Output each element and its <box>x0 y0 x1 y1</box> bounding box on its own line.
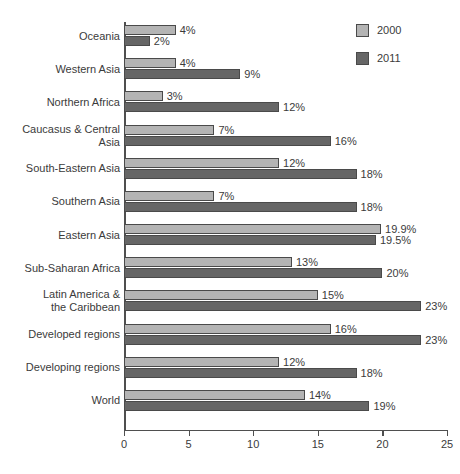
bar-value-label: 19.5% <box>380 235 411 245</box>
bar-group: 14%19% <box>124 390 447 412</box>
bar-group: 13%20% <box>124 257 447 279</box>
bar-value-label: 4% <box>180 25 196 35</box>
bar-2000 <box>124 25 176 35</box>
bar-value-label: 3% <box>167 91 183 101</box>
x-axis-tick <box>447 430 448 436</box>
bar-2011 <box>124 368 357 378</box>
bar-2011 <box>124 335 421 345</box>
bar-value-label: 7% <box>218 191 234 201</box>
x-axis-tick-label: 0 <box>121 438 127 450</box>
bar-2011 <box>124 69 240 79</box>
bar-2000 <box>124 390 305 400</box>
bar-value-label: 9% <box>244 69 260 79</box>
bar-2000 <box>124 58 176 68</box>
bar-2011 <box>124 169 357 179</box>
x-axis-tick-label: 10 <box>247 438 259 450</box>
bar-group: 4%9% <box>124 58 447 80</box>
x-axis-tick <box>318 430 319 436</box>
y-axis-label-line: World <box>2 394 120 407</box>
bar-group: 4%2% <box>124 25 447 47</box>
y-axis-label-line: Western Asia <box>2 63 120 76</box>
y-axis-category-label: Northern Africa <box>2 96 120 109</box>
bar-value-label: 7% <box>218 125 234 135</box>
x-axis-tick-label: 15 <box>312 438 324 450</box>
bar-value-label: 12% <box>283 102 305 112</box>
bar-value-label: 19.9% <box>385 224 416 234</box>
bar-2000 <box>124 290 318 300</box>
y-axis-category-label: Southern Asia <box>2 195 120 208</box>
bar-2011 <box>124 301 421 311</box>
y-axis-label-line: Northern Africa <box>2 96 120 109</box>
bar-2000 <box>124 91 163 101</box>
y-axis-category-labels: OceaniaWestern AsiaNorthern AfricaCaucas… <box>0 22 120 430</box>
bar-2000 <box>124 357 279 367</box>
bar-2011 <box>124 401 369 411</box>
bar-value-label: 2% <box>154 36 170 46</box>
x-axis-tick <box>382 430 383 436</box>
bar-group: 12%18% <box>124 158 447 180</box>
x-axis-line <box>124 430 447 431</box>
x-axis-tick-label: 20 <box>376 438 388 450</box>
bar-2011 <box>124 36 150 46</box>
bar-value-label: 4% <box>180 58 196 68</box>
bar-2011 <box>124 102 279 112</box>
y-axis-category-label: Western Asia <box>2 63 120 76</box>
bar-value-label: 13% <box>296 257 318 267</box>
bar-2000 <box>124 257 292 267</box>
bar-value-label: 18% <box>361 169 383 179</box>
bar-value-label: 16% <box>335 136 357 146</box>
y-axis-category-label: Sub-Saharan Africa <box>2 262 120 275</box>
y-axis-label-line: Developed regions <box>2 328 120 341</box>
x-axis-tick <box>124 430 125 436</box>
y-axis-label-line: Sub-Saharan Africa <box>2 262 120 275</box>
bar-2011 <box>124 235 376 245</box>
bar-value-label: 12% <box>283 158 305 168</box>
y-axis-category-label: Developing regions <box>2 361 120 374</box>
y-axis-category-label: Eastern Asia <box>2 229 120 242</box>
bar-value-label: 15% <box>322 290 344 300</box>
y-axis-category-label: World <box>2 394 120 407</box>
bar-group: 19.9%19.5% <box>124 224 447 246</box>
x-axis-tick-label: 25 <box>441 438 453 450</box>
bar-2000 <box>124 224 381 234</box>
bar-value-label: 23% <box>425 301 447 311</box>
y-axis-category-label: Developed regions <box>2 328 120 341</box>
bar-value-label: 18% <box>361 368 383 378</box>
y-axis-label-line: Eastern Asia <box>2 229 120 242</box>
bar-group: 16%23% <box>124 324 447 346</box>
x-axis-tick <box>189 430 190 436</box>
y-axis-label-line: Asia <box>2 136 120 149</box>
bar-value-label: 18% <box>361 202 383 212</box>
x-axis-tick-label: 5 <box>186 438 192 450</box>
y-axis-label-line: Developing regions <box>2 361 120 374</box>
y-axis-label-line: the Caribbean <box>2 301 120 314</box>
y-axis-label-line: Caucasus & Central <box>2 123 120 136</box>
bar-2000 <box>124 158 279 168</box>
bar-group: 15%23% <box>124 290 447 312</box>
bar-value-label: 12% <box>283 357 305 367</box>
bar-group: 3%12% <box>124 91 447 113</box>
x-axis-tick <box>253 430 254 436</box>
bar-2011 <box>124 268 382 278</box>
y-axis-category-label: Caucasus & CentralAsia <box>2 123 120 149</box>
bar-2011 <box>124 136 331 146</box>
y-axis-label-line: South-Eastern Asia <box>2 162 120 175</box>
bar-value-label: 20% <box>386 268 408 278</box>
bar-2011 <box>124 202 357 212</box>
bar-value-label: 19% <box>373 401 395 411</box>
y-axis-label-line: Latin America & <box>2 288 120 301</box>
bar-2000 <box>124 191 214 201</box>
bar-group: 7%16% <box>124 125 447 147</box>
bar-value-label: 23% <box>425 335 447 345</box>
y-axis-label-line: Southern Asia <box>2 195 120 208</box>
y-axis-category-label: Oceania <box>2 30 120 43</box>
bar-group: 7%18% <box>124 191 447 213</box>
bar-chart: 2000 2011 OceaniaWestern AsiaNorthern Af… <box>0 0 460 474</box>
y-axis-category-label: South-Eastern Asia <box>2 162 120 175</box>
bar-value-label: 14% <box>309 390 331 400</box>
bar-2000 <box>124 125 214 135</box>
bar-value-label: 16% <box>335 324 357 334</box>
bar-2000 <box>124 324 331 334</box>
y-axis-category-label: Latin America &the Caribbean <box>2 288 120 314</box>
y-axis-label-line: Oceania <box>2 30 120 43</box>
